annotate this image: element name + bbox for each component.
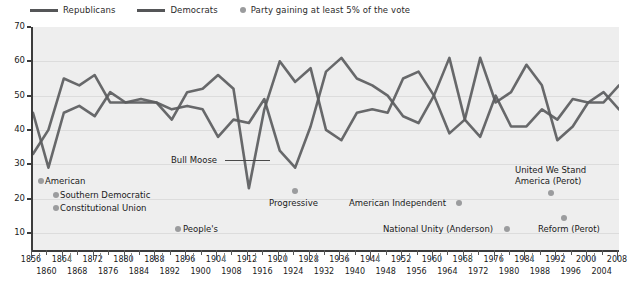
x-tick-mark-1884	[139, 250, 140, 255]
x-tick-mark-1976	[494, 250, 495, 260]
x-label-separator	[347, 253, 348, 262]
x-tick-mark-1892	[170, 250, 171, 255]
annotation-peoples: People's	[183, 224, 218, 235]
y-tick-label-10: 10	[3, 227, 25, 237]
x-tick-label-2008: 2008	[597, 255, 631, 264]
y-tick-label-50: 50	[3, 90, 25, 100]
x-tick-mark-1888	[154, 250, 155, 260]
marker-dot-american-independent	[456, 200, 462, 206]
x-tick-mark-1856	[31, 250, 32, 260]
series-line-democrats	[33, 58, 619, 168]
plot-inner	[33, 27, 619, 250]
y-tick-label-30: 30	[3, 158, 25, 168]
x-tick-mark-1872	[93, 250, 94, 260]
x-label-separator	[532, 253, 533, 262]
x-tick-mark-1980	[509, 250, 510, 255]
x-label-separator	[285, 253, 286, 262]
x-label-separator	[39, 253, 40, 262]
y-tick-label-20: 20	[3, 193, 25, 203]
x-tick-mark-1992	[555, 250, 556, 260]
x-axis-line	[31, 250, 619, 252]
marker-dot-southern-democratic	[53, 192, 59, 198]
y-tick-label-70: 70	[3, 21, 25, 31]
legend-label-republicans: Republicans	[63, 5, 115, 15]
x-tick-mark-1968	[463, 250, 464, 260]
x-label-separator	[409, 253, 410, 262]
marker-dot-uwsa	[548, 190, 554, 196]
x-label-separator	[316, 253, 317, 262]
annotation-national-unity: National Unity (Anderson)	[383, 224, 493, 235]
x-label-separator	[224, 253, 225, 262]
x-tick-mark-1928	[309, 250, 310, 260]
x-tick-mark-1896	[185, 250, 186, 260]
republicans-line-swatch	[30, 9, 58, 12]
marker-dot-national-unity	[504, 226, 510, 232]
annotation-american-independent: American Independent	[349, 198, 446, 209]
x-tick-mark-1880	[124, 250, 125, 260]
x-tick-mark-1920	[278, 250, 279, 260]
x-tick-mark-1876	[108, 250, 109, 255]
x-tick-mark-1948	[386, 250, 387, 255]
x-label-separator	[255, 253, 256, 262]
x-label-separator	[193, 253, 194, 262]
x-tick-mark-1936	[339, 250, 340, 260]
leader-line-bull-moose	[225, 160, 270, 161]
x-tick-mark-1860	[46, 250, 47, 255]
legend-label-democrats: Democrats	[170, 5, 217, 15]
annotation-uwsa-line2: America (Perot)	[515, 176, 581, 187]
annotation-uwsa-line1: United We Stand	[515, 165, 586, 176]
x-tick-mark-1864	[62, 250, 63, 260]
annotation-progressive: Progressive	[269, 198, 318, 209]
x-tick-mark-1984	[524, 250, 525, 260]
x-tick-mark-1940	[355, 250, 356, 255]
legend-item-republicans: Republicans	[30, 5, 115, 15]
x-label-separator	[131, 253, 132, 262]
legend-label-third-party: Party gaining at least 5% of the vote	[251, 5, 410, 15]
democrats-line-swatch	[137, 9, 165, 12]
x-label-separator	[563, 253, 564, 262]
chart-legend: Republicans Democrats Party gaining at l…	[30, 2, 410, 18]
x-label-separator	[594, 253, 595, 262]
x-tick-mark-1932	[324, 250, 325, 255]
legend-item-third-party: Party gaining at least 5% of the vote	[240, 5, 410, 15]
x-label-separator	[378, 253, 379, 262]
marker-dot-reform	[561, 215, 567, 221]
y-tick-label-60: 60	[3, 55, 25, 65]
x-label-separator	[471, 253, 472, 262]
marker-dot-peoples	[175, 226, 181, 232]
x-label-separator	[70, 253, 71, 262]
annotation-reform: Reform (Perot)	[538, 224, 600, 235]
x-label-separator	[440, 253, 441, 262]
annotation-american: American	[45, 176, 85, 187]
plot-area	[31, 27, 619, 250]
x-label-separator	[100, 253, 101, 262]
x-tick-mark-2004	[602, 250, 603, 255]
x-tick-mark-1964	[447, 250, 448, 255]
y-tick-label-40: 40	[3, 124, 25, 134]
annotation-southern-democratic: Southern Democratic	[60, 190, 150, 201]
x-tick-mark-1916	[262, 250, 263, 255]
x-label-separator	[501, 253, 502, 262]
annotation-constitutional-union: Constitutional Union	[60, 203, 146, 214]
x-tick-mark-1960	[432, 250, 433, 260]
x-tick-mark-1956	[417, 250, 418, 255]
x-tick-mark-2000	[586, 250, 587, 260]
x-tick-mark-1912	[247, 250, 248, 260]
x-tick-mark-1868	[77, 250, 78, 255]
legend-item-democrats: Democrats	[137, 5, 217, 15]
x-tick-mark-1972	[478, 250, 479, 255]
x-tick-mark-1900	[201, 250, 202, 255]
x-tick-mark-2008	[617, 250, 618, 260]
marker-dot-progressive	[292, 188, 298, 194]
x-tick-mark-1988	[540, 250, 541, 255]
x-tick-mark-1944	[370, 250, 371, 260]
x-tick-mark-1952	[401, 250, 402, 260]
x-tick-mark-1908	[231, 250, 232, 255]
marker-dot-constitutional-union	[53, 205, 59, 211]
chart-root: Republicans Democrats Party gaining at l…	[0, 0, 631, 283]
series-lines	[33, 27, 619, 250]
marker-dot-american	[38, 178, 44, 184]
annotation-bull-moose: Bull Moose	[171, 155, 217, 166]
x-tick-mark-1904	[216, 250, 217, 260]
x-label-separator	[162, 253, 163, 262]
